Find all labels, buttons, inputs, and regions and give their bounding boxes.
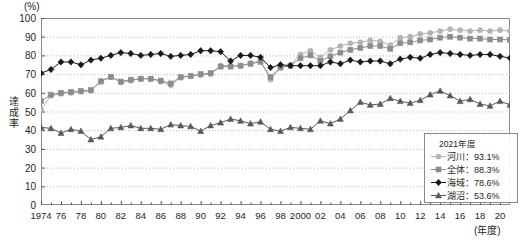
- circle-marker-icon: [436, 154, 441, 159]
- square-marker-icon: [308, 53, 313, 58]
- square-marker-icon: [478, 36, 483, 41]
- legend-item-label: 海域：78.6%: [447, 176, 500, 189]
- circle-marker-icon: [487, 28, 492, 33]
- square-marker-icon: [458, 35, 463, 40]
- square-marker-icon: [268, 74, 273, 79]
- square-marker-icon: [368, 44, 373, 49]
- square-marker-icon: [148, 76, 153, 81]
- square-marker-icon: [488, 37, 493, 42]
- square-marker-icon: [298, 56, 303, 61]
- circle-marker-icon: [428, 30, 433, 35]
- square-marker-icon: [158, 78, 163, 83]
- circle-marker-icon: [378, 39, 383, 44]
- diamond-marker-icon: [430, 176, 447, 189]
- x-axis-unit-label: (年度): [474, 226, 501, 236]
- y-tick-label: 10: [8, 181, 36, 192]
- square-marker-icon: [468, 36, 473, 41]
- y-axis-unit-label: (%): [24, 2, 40, 12]
- square-marker-icon: [238, 63, 243, 68]
- legend-item-label: 河川：93.1%: [447, 150, 500, 163]
- y-tick-label: 90: [8, 32, 36, 43]
- square-marker-icon: [98, 79, 103, 84]
- legend-item: 海域：78.6%: [430, 176, 513, 189]
- square-marker-icon: [428, 37, 433, 42]
- square-marker-icon: [388, 46, 393, 51]
- chart-legend: 2021年度 河川：93.1%全体：88.3%海域：78.6%湖沼：53.6%: [424, 133, 518, 203]
- square-marker-icon: [348, 47, 353, 52]
- triangle-marker-icon: [430, 189, 447, 202]
- y-tick-label: 50: [8, 107, 36, 118]
- square-marker-icon: [88, 87, 93, 92]
- circle-marker-icon: [507, 28, 510, 33]
- square-marker-icon: [48, 92, 53, 97]
- square-marker-icon: [508, 37, 511, 42]
- circle-marker-icon: [358, 40, 363, 45]
- circle-marker-icon: [430, 150, 447, 163]
- y-tick-label: 40: [8, 125, 36, 136]
- y-tick-label: 80: [8, 50, 36, 61]
- square-marker-icon: [408, 40, 413, 45]
- square-marker-icon: [208, 71, 213, 76]
- square-marker-icon: [228, 64, 233, 69]
- legend-rows: 河川：93.1%全体：88.3%海域：78.6%湖沼：53.6%: [430, 150, 513, 202]
- square-marker-icon: [108, 74, 113, 79]
- circle-marker-icon: [338, 43, 343, 48]
- legend-item: 全体：88.3%: [430, 163, 513, 176]
- square-marker-icon: [378, 44, 383, 49]
- circle-marker-icon: [41, 107, 44, 112]
- square-marker-icon: [418, 38, 423, 43]
- diamond-marker-icon: [436, 179, 442, 185]
- legend-title: 2021年度: [439, 137, 513, 149]
- square-marker-icon: [498, 37, 503, 42]
- chart-figure: (%) 達成率 1009080706050403020100 197476788…: [0, 0, 530, 240]
- circle-marker-icon: [328, 47, 333, 52]
- square-marker-icon: [430, 163, 447, 176]
- square-marker-icon: [128, 77, 133, 82]
- y-tick-label: 100: [8, 13, 36, 24]
- circle-marker-icon: [497, 28, 502, 33]
- y-tick-label: 60: [8, 88, 36, 99]
- circle-marker-icon: [348, 41, 353, 46]
- circle-marker-icon: [448, 27, 453, 32]
- square-marker-icon: [398, 41, 403, 46]
- square-marker-icon: [338, 50, 343, 55]
- legend-item: 河川：93.1%: [430, 150, 513, 163]
- legend-item: 湖沼：53.6%: [430, 189, 513, 202]
- square-marker-icon: [168, 81, 173, 86]
- square-marker-icon: [218, 64, 223, 69]
- circle-marker-icon: [458, 28, 463, 33]
- square-marker-icon: [188, 73, 193, 78]
- square-marker-icon: [68, 89, 73, 94]
- circle-marker-icon: [308, 48, 313, 53]
- circle-marker-icon: [477, 28, 482, 33]
- square-marker-icon: [58, 90, 63, 95]
- square-marker-icon: [198, 72, 203, 77]
- legend-item-label: 全体：88.3%: [447, 163, 500, 176]
- circle-marker-icon: [398, 35, 403, 40]
- square-marker-icon: [178, 74, 183, 79]
- circle-marker-icon: [467, 28, 472, 33]
- y-tick-label: 20: [8, 163, 36, 174]
- square-marker-icon: [41, 99, 44, 104]
- circle-marker-icon: [368, 38, 373, 43]
- square-marker-icon: [358, 45, 363, 50]
- circle-marker-icon: [418, 31, 423, 36]
- square-marker-icon: [448, 34, 453, 39]
- square-marker-icon: [436, 167, 441, 172]
- square-marker-icon: [248, 61, 253, 66]
- circle-marker-icon: [438, 28, 443, 33]
- square-marker-icon: [438, 35, 443, 40]
- legend-item-label: 湖沼：53.6%: [447, 189, 500, 202]
- square-marker-icon: [118, 79, 123, 84]
- square-marker-icon: [138, 76, 143, 81]
- y-tick-label: 30: [8, 144, 36, 155]
- x-tick-label: 20: [485, 210, 515, 221]
- circle-marker-icon: [408, 34, 413, 39]
- square-marker-icon: [328, 54, 333, 59]
- y-tick-label: 70: [8, 69, 36, 80]
- square-marker-icon: [78, 88, 83, 93]
